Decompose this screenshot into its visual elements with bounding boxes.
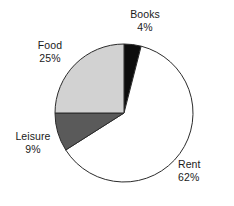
pie-label-rent: Rent 62% bbox=[178, 158, 230, 183]
pie-label-rent-name: Rent bbox=[178, 158, 230, 171]
pie-label-food-name: Food bbox=[22, 39, 78, 52]
pie-label-rent-value: 62% bbox=[178, 171, 230, 184]
pie-label-books: Books 4% bbox=[117, 8, 173, 33]
pie-chart: Books 4% Food 25% Leisure 9% Rent 62% bbox=[0, 0, 234, 206]
pie-label-food: Food 25% bbox=[22, 39, 78, 64]
pie-label-food-value: 25% bbox=[22, 52, 78, 65]
pie-label-leisure-value: 9% bbox=[2, 143, 64, 156]
pie-label-leisure: Leisure 9% bbox=[2, 130, 64, 155]
pie-slice-group bbox=[55, 44, 193, 182]
pie-label-leisure-name: Leisure bbox=[2, 130, 64, 143]
pie-label-books-value: 4% bbox=[117, 21, 173, 34]
pie-label-books-name: Books bbox=[117, 8, 173, 21]
